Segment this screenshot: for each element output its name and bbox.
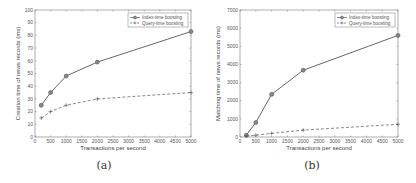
y-tick-label: 60: [27, 58, 33, 64]
circle-marker: [95, 60, 99, 64]
circle-marker: [189, 30, 193, 34]
legend-entry: Query-time boosting: [142, 21, 184, 26]
circle-marker: [301, 68, 305, 72]
circle-marker: [254, 120, 258, 124]
legend: Index-time boostingQuery-time boosting: [335, 13, 395, 27]
x-tick-label: 2000: [92, 138, 103, 144]
plus-marker: [189, 91, 193, 95]
x-tick-label: 500: [46, 138, 55, 144]
legend-entry: Index-time boosting: [349, 15, 390, 20]
x-tick-label: 3500: [139, 138, 150, 144]
plus-marker: [64, 103, 68, 107]
circle-marker: [49, 91, 53, 95]
y-tick-label: 30: [27, 96, 33, 102]
x-tick-label: 500: [252, 138, 261, 144]
y-tick-label: 2000: [227, 97, 238, 103]
x-tick-label: 1500: [282, 138, 293, 144]
plus-marker: [301, 128, 305, 132]
x-tick-label: 1000: [61, 138, 72, 144]
x-tick-label: 5000: [392, 138, 403, 144]
y-tick-label: 50: [27, 70, 33, 76]
series-line-1: [41, 93, 191, 118]
y-tick-label: 7000: [227, 7, 238, 13]
x-tick-label: 4000: [154, 138, 165, 144]
y-tick-label: 4000: [227, 61, 238, 67]
plot-frame: [240, 10, 398, 137]
x-axis-label: Transactions per second: [286, 145, 351, 151]
circle-marker: [64, 74, 68, 78]
x-tick-label: 2000: [298, 138, 309, 144]
y-tick-label: 100: [25, 7, 34, 13]
y-tick-label: 1000: [227, 116, 238, 122]
y-tick-label: 5000: [227, 43, 238, 49]
circle-marker: [39, 103, 43, 107]
plus-marker: [270, 131, 274, 135]
plot-frame: [35, 10, 191, 137]
chart-b-plot: 0500100015002000250030003500400045005000…: [208, 0, 416, 160]
legend-entry: Query-time boosting: [349, 21, 391, 26]
chart-b: 0500100015002000250030003500400045005000…: [208, 0, 416, 183]
x-tick-label: 4500: [377, 138, 388, 144]
chart-a: 0500100015002000250030003500400045005000…: [0, 0, 208, 183]
x-tick-label: 5000: [185, 138, 196, 144]
x-tick-label: 1000: [266, 138, 277, 144]
y-tick-label: 10: [27, 121, 33, 127]
legend: Index-time boostingQuery-time boosting: [128, 13, 188, 27]
plus-marker: [254, 133, 258, 137]
y-tick-label: 20: [27, 108, 33, 114]
x-tick-label: 0: [239, 138, 242, 144]
y-axis-label: Matching time of news records (ms): [215, 26, 221, 121]
legend-entry: Index-time boosting: [142, 15, 183, 20]
plus-marker: [49, 110, 53, 114]
x-axis-label: Transactions per second: [80, 145, 145, 151]
y-tick-label: 0: [30, 134, 33, 140]
circle-marker: [341, 16, 344, 19]
plus-marker: [39, 116, 43, 120]
circle-marker: [396, 33, 400, 37]
x-tick-label: 2500: [107, 138, 118, 144]
x-tick-label: 2500: [313, 138, 324, 144]
y-tick-label: 3000: [227, 79, 238, 85]
plus-marker: [95, 97, 99, 101]
x-tick-label: 4000: [361, 138, 372, 144]
y-tick-label: 6000: [227, 25, 238, 31]
x-tick-label: 3000: [123, 138, 134, 144]
chart-b-caption: (b): [208, 159, 416, 172]
x-tick-label: 0: [34, 138, 37, 144]
y-tick-label: 80: [27, 32, 33, 38]
y-tick-label: 40: [27, 83, 33, 89]
plus-marker: [396, 122, 400, 126]
x-tick-label: 3500: [345, 138, 356, 144]
y-tick-label: 70: [27, 45, 33, 51]
x-tick-label: 3000: [329, 138, 340, 144]
y-tick-label: 90: [27, 19, 33, 25]
y-axis-label: Creation time of news records (ms): [15, 27, 21, 120]
chart-a-caption: (a): [0, 159, 208, 172]
y-tick-label: 0: [235, 134, 238, 140]
series-line-1: [246, 124, 398, 136]
x-tick-label: 1500: [76, 138, 87, 144]
x-tick-label: 4500: [170, 138, 181, 144]
series-line-0: [246, 35, 398, 135]
circle-marker: [134, 16, 137, 19]
circle-marker: [270, 92, 274, 96]
chart-a-plot: 0500100015002000250030003500400045005000…: [0, 0, 208, 160]
